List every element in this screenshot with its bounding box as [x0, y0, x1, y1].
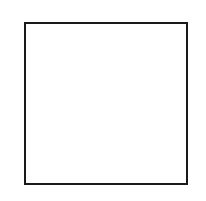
figure-root [0, 0, 206, 201]
plot-box-background [25, 23, 187, 184]
plot-box-group [25, 23, 187, 184]
figure-canvas [0, 0, 206, 201]
